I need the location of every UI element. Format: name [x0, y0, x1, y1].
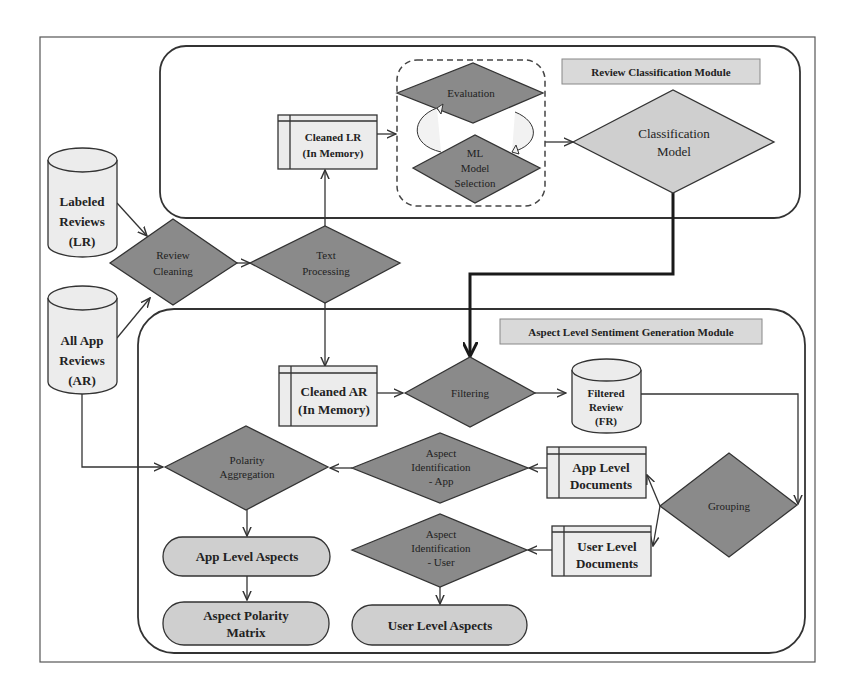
process-classification-model: Classification Model [573, 90, 774, 193]
architecture-diagram: Review Classification Module Aspect Leve… [0, 0, 853, 700]
process-grouping: Grouping [660, 453, 797, 557]
memory-store-user-level-documents: User Level Documents [552, 526, 651, 576]
sentiment-module-title: Aspect Level Sentiment Generation Module [528, 326, 733, 338]
process-polarity-aggregation: Polarity Aggregation [165, 426, 328, 510]
svg-text:User Level Aspects: User Level Aspects [388, 618, 492, 633]
svg-text:(LR): (LR) [69, 234, 96, 249]
svg-text:Identification: Identification [411, 542, 471, 554]
process-filtering: Filtering [405, 357, 535, 427]
process-aspect-identification-app: Aspect Identification - App [352, 433, 528, 503]
connector-ar-to-cleaning [117, 298, 150, 338]
process-review-cleaning: Review Cleaning [110, 219, 237, 305]
data-store-all-app-reviews: All App Reviews (AR) [48, 286, 117, 394]
svg-text:All App: All App [61, 333, 104, 348]
svg-text:Polarity: Polarity [230, 454, 265, 466]
process-text-processing: Text Processing [250, 226, 400, 303]
svg-text:(In Memory): (In Memory) [298, 402, 370, 417]
connector-lr-to-cleaning [117, 203, 147, 236]
svg-text:Filtering: Filtering [451, 387, 489, 399]
output-user-level-aspects: User Level Aspects [352, 605, 527, 645]
svg-text:(In Memory): (In Memory) [303, 147, 364, 160]
data-store-filtered-review: Filtered Review (FR) [572, 359, 641, 433]
svg-text:Model: Model [657, 144, 691, 159]
classification-module-title: Review Classification Module [591, 66, 730, 78]
svg-text:App Level: App Level [572, 460, 630, 475]
connector-grouping-to-app-docs [647, 475, 660, 506]
svg-text:Processing: Processing [302, 265, 350, 277]
svg-text:Documents: Documents [576, 556, 638, 571]
svg-text:Reviews: Reviews [59, 214, 105, 229]
process-evaluation: Evaluation [397, 63, 543, 123]
svg-text:Aspect Polarity: Aspect Polarity [203, 608, 289, 623]
svg-text:App Level Aspects: App Level Aspects [196, 549, 299, 564]
svg-text:Cleaned LR: Cleaned LR [305, 131, 363, 143]
svg-text:Matrix: Matrix [227, 625, 266, 640]
svg-text:Reviews: Reviews [59, 353, 105, 368]
svg-text:Selection: Selection [455, 177, 496, 189]
memory-store-cleaned-lr: Cleaned LR (In Memory) [278, 115, 377, 169]
svg-text:User Level: User Level [577, 539, 637, 554]
svg-text:Evaluation: Evaluation [447, 87, 495, 99]
svg-text:Cleaned AR: Cleaned AR [301, 384, 368, 399]
svg-text:Cleaning: Cleaning [153, 265, 193, 277]
connector-grouping-to-user-docs [653, 506, 660, 546]
svg-text:Aspect: Aspect [426, 447, 457, 459]
data-store-labeled-reviews: Labeled Reviews (LR) [48, 148, 117, 257]
output-aspect-polarity-matrix: Aspect Polarity Matrix [163, 602, 329, 645]
svg-text:Aspect: Aspect [426, 528, 457, 540]
svg-text:Text: Text [316, 249, 335, 261]
svg-text:Review: Review [156, 249, 190, 261]
svg-text:- App: - App [429, 475, 454, 487]
memory-store-cleaned-ar: Cleaned AR (In Memory) [279, 366, 377, 426]
svg-text:Documents: Documents [570, 477, 632, 492]
svg-text:Labeled: Labeled [60, 194, 106, 209]
svg-text:Grouping: Grouping [708, 500, 751, 512]
svg-text:Review: Review [589, 401, 623, 413]
svg-text:(AR): (AR) [68, 373, 95, 388]
output-app-level-aspects: App Level Aspects [163, 537, 330, 576]
svg-text:Model: Model [461, 162, 490, 174]
svg-text:(FR): (FR) [595, 415, 617, 428]
process-aspect-identification-user: Aspect Identification - User [352, 514, 527, 587]
svg-text:Classification: Classification [638, 126, 710, 141]
svg-text:- User: - User [427, 556, 455, 568]
svg-text:Filtered: Filtered [587, 387, 624, 399]
svg-text:Aggregation: Aggregation [220, 468, 275, 480]
memory-store-app-level-documents: App Level Documents [547, 447, 646, 498]
svg-text:Identification: Identification [411, 461, 471, 473]
svg-text:ML: ML [467, 147, 484, 159]
connector-ar-to-polarity [82, 394, 163, 467]
